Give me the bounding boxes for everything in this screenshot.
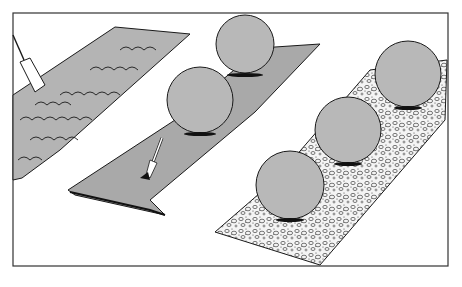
shrub-icon xyxy=(167,67,233,133)
shrub-icon xyxy=(375,41,441,107)
illustration xyxy=(0,0,462,287)
shrub-icon xyxy=(315,97,381,163)
garden-beds-drawing xyxy=(0,0,462,287)
shrub-icon xyxy=(256,151,324,219)
shrub-icon xyxy=(216,15,274,73)
